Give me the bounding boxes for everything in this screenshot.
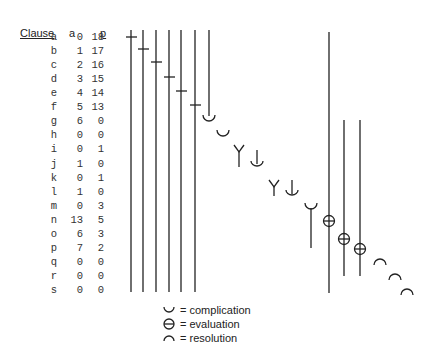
resolution-icon xyxy=(162,332,176,344)
complication-icon xyxy=(162,304,176,316)
legend-evaluation-label: = evaluation xyxy=(180,318,240,330)
legend-complication-label: = complication xyxy=(180,304,251,316)
evaluation-icon xyxy=(162,318,176,330)
legend-resolution-label: = resolution xyxy=(180,332,237,344)
legend-evaluation: = evaluation xyxy=(162,318,240,330)
legend-resolution: = resolution xyxy=(162,332,237,344)
legend-complication: = complication xyxy=(162,304,251,316)
